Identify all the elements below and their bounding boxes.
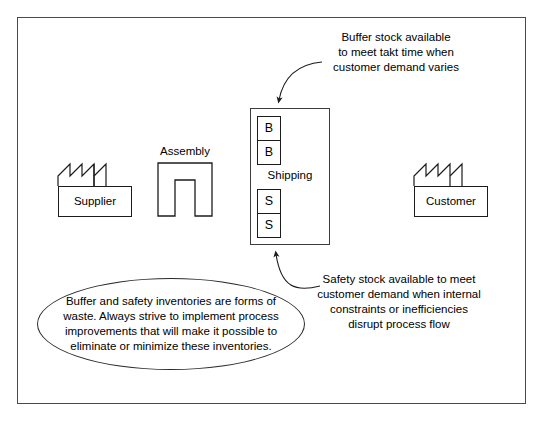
buffer-stock-cell: B — [257, 116, 281, 141]
customer-label: Customer — [414, 186, 488, 217]
safety-annotation: Safety stock available to meet customer … — [313, 272, 485, 332]
safety-stock-cell: S — [257, 213, 281, 238]
supplier-node[interactable]: Supplier — [58, 161, 132, 217]
shipping-label: Shipping — [250, 169, 330, 181]
buffer-stock-cell: B — [257, 140, 281, 165]
assembly-label: Assembly — [151, 144, 219, 158]
buffer-annotation: Buffer stock available to meet takt time… — [313, 30, 479, 75]
customer-node[interactable]: Customer — [414, 161, 488, 217]
waste-note-text: Buffer and safety inventories are forms … — [55, 294, 287, 354]
buffer-stock-column: B B — [257, 116, 281, 164]
supplier-label: Supplier — [58, 186, 132, 217]
diagram-canvas: Supplier Customer Assembly Shipping B B … — [0, 0, 544, 423]
waste-note-ellipse: Buffer and safety inventories are forms … — [37, 278, 305, 370]
safety-stock-column: S S — [257, 189, 281, 237]
safety-stock-cell: S — [257, 189, 281, 214]
